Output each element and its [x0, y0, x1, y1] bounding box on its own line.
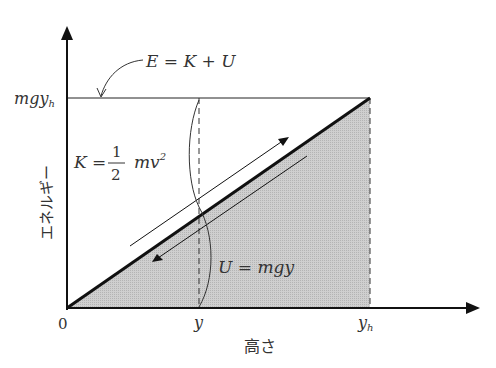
kinetic-brace-curve	[189, 100, 199, 207]
energy-height-diagram: E = K + U mgyh K = 1 2 mv2 U = mgy 0 y y…	[0, 0, 496, 368]
total-energy-pointer	[101, 60, 143, 96]
y-tick-mgyh: mgyh	[14, 89, 55, 109]
total-energy-label: E = K + U	[145, 51, 236, 71]
potential-label: U = mgy	[218, 257, 294, 277]
y-axis-label: エネルギー	[38, 165, 56, 240]
origin-label: 0	[58, 315, 68, 333]
up-arrowhead-icon	[278, 137, 289, 146]
y-axis-arrow-icon	[61, 26, 73, 40]
x-tick-y: y	[193, 313, 204, 332]
kinetic-rhs: mv2	[134, 151, 166, 172]
x-axis-arrow-icon	[466, 302, 480, 314]
kinetic-lhs: K =	[73, 152, 106, 172]
x-axis-label: 高さ	[244, 337, 276, 356]
x-tick-yh: yh	[357, 313, 374, 333]
kinetic-numerator: 1	[112, 143, 122, 161]
kinetic-denominator: 2	[111, 166, 121, 184]
pointer-arrowhead-icon	[97, 88, 106, 97]
